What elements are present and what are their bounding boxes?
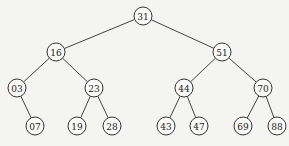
tree-node-47: 47 [190, 117, 208, 135]
node-label: 44 [178, 84, 190, 94]
tree-node-31: 31 [134, 7, 152, 25]
edge-31-51 [151, 20, 214, 49]
node-label: 28 [106, 122, 118, 132]
edge-03-07 [21, 96, 31, 118]
edge-16-03 [24, 58, 50, 82]
edge-44-47 [187, 96, 195, 117]
edge-31-16 [64, 19, 134, 48]
tree-node-69: 69 [234, 117, 252, 135]
edge-16-23 [63, 58, 88, 82]
tree-node-23: 23 [85, 79, 103, 97]
tree-node-07: 07 [26, 117, 44, 135]
edge-44-43 [170, 96, 180, 118]
node-label: 31 [137, 12, 148, 22]
tree-node-70: 70 [254, 79, 272, 97]
edge-70-69 [247, 96, 259, 118]
tree-node-43: 43 [157, 117, 175, 135]
node-label: 70 [257, 84, 269, 94]
tree-node-16: 16 [47, 43, 65, 61]
node-label: 69 [237, 122, 249, 132]
edge-51-44 [191, 58, 216, 82]
node-label: 43 [160, 122, 172, 132]
node-label: 47 [193, 122, 205, 132]
edge-51-70 [229, 58, 256, 82]
edge-70-88 [266, 96, 274, 117]
tree-node-88: 88 [268, 117, 286, 135]
edge-23-19 [81, 96, 91, 118]
edge-23-28 [98, 96, 108, 118]
node-label: 03 [11, 84, 23, 94]
tree-node-51: 51 [213, 43, 231, 61]
node-label: 07 [29, 122, 41, 132]
node-label: 51 [216, 48, 227, 58]
tree-node-44: 44 [175, 79, 193, 97]
tree-edges [21, 19, 274, 118]
tree-node-19: 19 [68, 117, 86, 135]
node-label: 23 [88, 84, 100, 94]
node-label: 16 [50, 48, 62, 58]
tree-node-03: 03 [8, 79, 26, 97]
binary-tree-diagram: 3116510323447007192843476988 [0, 0, 289, 146]
tree-node-28: 28 [103, 117, 121, 135]
node-label: 19 [71, 122, 83, 132]
node-label: 88 [271, 122, 283, 132]
